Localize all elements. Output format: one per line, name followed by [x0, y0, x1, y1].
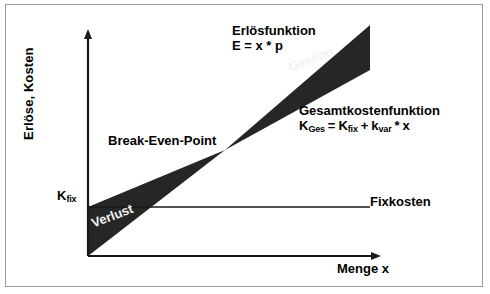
- loss-region-wedge: [88, 150, 225, 256]
- diagram-canvas: Erlöse, Kosten Menge x Kfix Break-Even-P…: [0, 0, 490, 294]
- kvar-base: k: [371, 118, 378, 133]
- kges-subscript: Ges: [308, 124, 324, 134]
- x-variable: x: [403, 118, 410, 133]
- x-axis-label: Menge x: [337, 261, 389, 276]
- kfix-subscript: fix: [348, 124, 358, 134]
- revenue-function-title: Erlösfunktion: [232, 23, 316, 38]
- times-sign: *: [394, 118, 399, 133]
- fixed-costs-label: Fixkosten: [370, 194, 431, 209]
- plus-sign: +: [361, 118, 369, 133]
- cost-function-formula: KGes=Kfix+kvar*x: [299, 118, 440, 135]
- revenue-function-annotation: Erlösfunktion E = x * p: [232, 23, 316, 54]
- kges-base: K: [299, 118, 308, 133]
- kfix-tick-base: K: [57, 188, 66, 203]
- kvar-subscript: var: [379, 124, 392, 134]
- revenue-function-formula: E = x * p: [232, 38, 316, 53]
- break-even-point-label: Break-Even-Point: [108, 133, 216, 148]
- kfix-axis-tick-label: Kfix: [57, 188, 76, 205]
- cost-function-annotation: Gesamtkostenfunktion KGes=Kfix+kvar*x: [299, 103, 440, 135]
- y-axis-label: Erlöse, Kosten: [21, 34, 36, 154]
- cost-function-title: Gesamtkostenfunktion: [299, 103, 440, 118]
- kfix-tick-subscript: fix: [66, 194, 76, 204]
- kfix-base: K: [338, 118, 347, 133]
- equals-sign: =: [328, 118, 336, 133]
